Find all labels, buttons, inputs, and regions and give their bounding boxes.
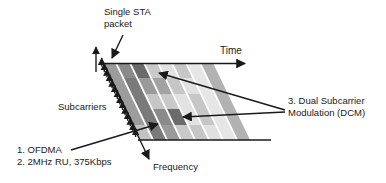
dcm-line1: 3. Dual Subcarrier [288, 95, 365, 107]
frequency-axis-label: Frequency [153, 161, 198, 173]
ofdma-line1: 1. OFDMA [17, 144, 112, 156]
ofdma-line2: 2. 2MHz RU, 375Kbps [17, 156, 112, 168]
single-sta-line2: packet [104, 18, 151, 30]
dcm-label: 3. Dual Subcarrier Modulation (DCM) [288, 95, 365, 118]
single-sta-line1: Single STA [104, 6, 151, 18]
time-axis-label: Time [220, 45, 242, 57]
diagram-canvas: Single STA packet Time Subcarriers 1. OF… [0, 0, 386, 183]
single-sta-packet-label: Single STA packet [104, 6, 151, 29]
resource-unit-grid [103, 63, 250, 140]
single-sta-callout-arrow [112, 35, 123, 58]
dcm-line2: Modulation (DCM) [288, 107, 365, 119]
subcarriers-label: Subcarriers [58, 101, 107, 113]
ofdma-label: 1. OFDMA 2. 2MHz RU, 375Kbps [17, 144, 112, 167]
